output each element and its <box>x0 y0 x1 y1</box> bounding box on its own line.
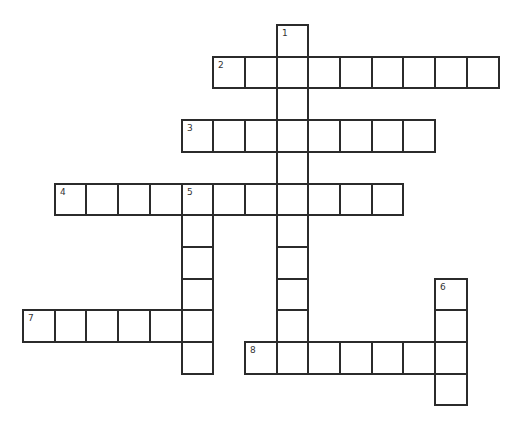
crossword-cell[interactable] <box>307 56 341 89</box>
clue-number: 5 <box>187 187 193 197</box>
crossword-cell[interactable] <box>307 341 341 375</box>
crossword-cell[interactable] <box>434 373 468 406</box>
crossword-cell[interactable] <box>181 214 214 248</box>
crossword-cell[interactable]: 6 <box>434 278 468 311</box>
crossword-cell[interactable] <box>276 341 309 375</box>
crossword-cell[interactable] <box>181 278 214 311</box>
crossword-cell[interactable] <box>244 119 278 153</box>
crossword-cell[interactable] <box>276 151 309 185</box>
crossword-cell[interactable] <box>181 246 214 280</box>
crossword-cell[interactable] <box>117 309 151 343</box>
crossword-cell[interactable] <box>434 341 468 375</box>
crossword-cell[interactable] <box>339 183 373 216</box>
crossword-cell[interactable] <box>434 309 468 343</box>
crossword-cell[interactable] <box>85 309 119 343</box>
crossword-cell[interactable] <box>307 119 341 153</box>
crossword-cell[interactable] <box>244 183 278 216</box>
crossword-cell[interactable] <box>212 183 246 216</box>
crossword-cell[interactable] <box>276 214 309 248</box>
crossword-cell[interactable] <box>339 119 373 153</box>
clue-number: 7 <box>28 313 34 323</box>
crossword-cell[interactable] <box>339 56 373 89</box>
crossword-cell[interactable] <box>402 341 436 375</box>
crossword-cell[interactable] <box>276 56 309 89</box>
clue-number: 3 <box>187 123 193 133</box>
crossword-cell[interactable] <box>276 246 309 280</box>
crossword-cell[interactable] <box>244 56 278 89</box>
crossword-cell[interactable] <box>149 183 183 216</box>
crossword-cell[interactable] <box>54 309 87 343</box>
crossword-cell[interactable]: 1 <box>276 24 309 58</box>
clue-number: 4 <box>60 187 66 197</box>
clue-number: 2 <box>218 60 224 70</box>
crossword-cell[interactable]: 7 <box>22 309 56 343</box>
crossword-cell[interactable] <box>371 119 404 153</box>
crossword-cell[interactable] <box>149 309 183 343</box>
crossword-cell[interactable]: 8 <box>244 341 278 375</box>
crossword-cell[interactable] <box>371 341 404 375</box>
crossword-cell[interactable] <box>85 183 119 216</box>
crossword-cell[interactable] <box>212 119 246 153</box>
crossword-cell[interactable] <box>181 309 214 343</box>
crossword-cell[interactable] <box>276 278 309 311</box>
crossword-cell[interactable]: 3 <box>181 119 214 153</box>
crossword-cell[interactable] <box>276 183 309 216</box>
crossword-cell[interactable] <box>402 56 436 89</box>
crossword-cell[interactable]: 2 <box>212 56 246 89</box>
crossword-cell[interactable] <box>117 183 151 216</box>
crossword-cell[interactable] <box>466 56 500 89</box>
crossword-cell[interactable] <box>434 56 468 89</box>
crossword-cell[interactable] <box>276 87 309 121</box>
clue-number: 8 <box>250 345 256 355</box>
crossword-cell[interactable] <box>371 56 404 89</box>
crossword-cell[interactable] <box>339 341 373 375</box>
crossword-cell[interactable] <box>371 183 404 216</box>
crossword-cell[interactable] <box>276 119 309 153</box>
crossword-grid: 12345678 <box>0 0 524 426</box>
crossword-cell[interactable] <box>402 119 436 153</box>
crossword-cell[interactable] <box>181 341 214 375</box>
clue-number: 1 <box>282 28 288 38</box>
crossword-cell[interactable]: 4 <box>54 183 87 216</box>
crossword-cell[interactable]: 5 <box>181 183 214 216</box>
crossword-cell[interactable] <box>307 183 341 216</box>
crossword-cell[interactable] <box>276 309 309 343</box>
clue-number: 6 <box>440 282 446 292</box>
